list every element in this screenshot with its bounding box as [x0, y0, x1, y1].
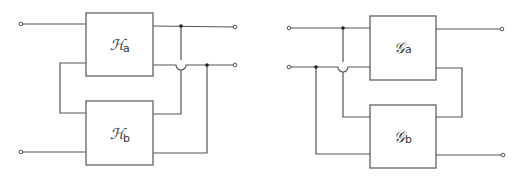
block-hb: ℋ b [86, 101, 153, 165]
junction-dot [205, 63, 209, 67]
junction-dot [341, 26, 345, 30]
wire-hb-output-bottom [153, 65, 207, 153]
block-ga: 𝒢 a [370, 16, 436, 80]
junction-dot [179, 24, 183, 28]
terminal [500, 27, 504, 31]
terminal [19, 22, 23, 26]
terminal [287, 26, 291, 30]
block-ha: ℋ a [86, 13, 153, 76]
wire-ha-output-bottom [153, 65, 235, 70]
terminal [233, 63, 237, 67]
network-diagram: ℋ a ℋ b 𝒢 [0, 0, 519, 176]
junction-dot [314, 65, 318, 69]
block-hb-subscript: b [123, 132, 130, 145]
block-gb: 𝒢 b [370, 105, 436, 168]
terminal [501, 153, 505, 157]
terminal [19, 150, 23, 154]
right-network: 𝒢 a 𝒢 b [287, 16, 505, 168]
terminal [233, 25, 237, 29]
wire-right-input-bottom [289, 67, 370, 72]
left-network: ℋ a ℋ b [19, 13, 237, 165]
wire-right-loop [436, 68, 462, 117]
wire-ga-to-gb-top [343, 28, 370, 117]
terminal [287, 65, 291, 69]
block-ga-subscript: a [405, 43, 412, 56]
wire-ha-to-hb-top [153, 26, 181, 114]
wire-left-loop [60, 63, 86, 113]
wire-ha-output-top [153, 26, 235, 27]
block-gb-subscript: b [405, 133, 412, 146]
block-ha-subscript: a [123, 42, 130, 55]
